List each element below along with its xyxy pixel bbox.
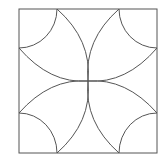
geometric-diagram (0, 0, 167, 165)
corner-arc-top-right (119, 9, 157, 48)
corner-arc-bottom-right (119, 113, 157, 153)
petal-arc-4 (19, 48, 157, 113)
corner-arc-top-left (19, 9, 57, 48)
corner-arc-bottom-left (19, 113, 57, 153)
